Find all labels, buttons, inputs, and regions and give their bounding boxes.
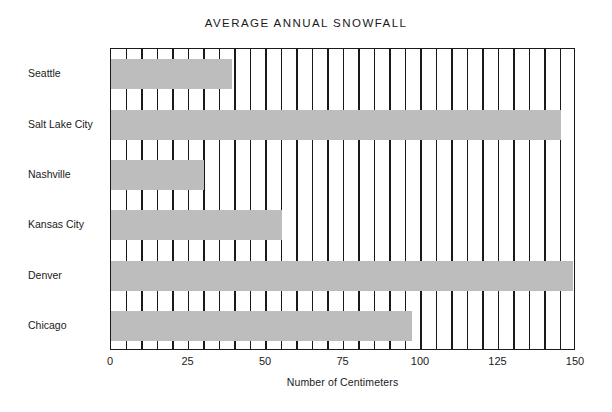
bar [111,261,573,291]
x-tick-label: 75 [336,355,348,367]
gridline [234,49,235,349]
gridline [312,49,313,349]
chart-title: AVERAGE ANNUAL SNOWFALL [0,17,612,29]
gridline [172,49,173,349]
x-tick-label: 125 [488,355,506,367]
category-label: Salt Lake City [0,118,100,130]
gridline [188,49,189,349]
category-label: Kansas City [0,218,100,230]
x-tick-label: 50 [259,355,271,367]
gridline [358,49,359,349]
gridline [265,49,266,349]
gridline [141,49,142,349]
gridline [529,49,530,349]
gridline [482,49,483,349]
gridline [126,49,127,349]
gridline [281,49,282,349]
bar [111,110,561,140]
gridline [327,49,328,349]
plot-area [110,48,575,350]
gridline [250,49,251,349]
bar [111,59,232,89]
gridline [498,49,499,349]
bar [111,160,204,190]
gridline [451,49,452,349]
gridline [157,49,158,349]
x-axis-title: Number of Centimeters [110,376,575,388]
bar [111,210,282,240]
category-label: Seattle [0,67,100,79]
x-tick-label: 25 [181,355,193,367]
gridline [513,49,514,349]
gridline [219,49,220,349]
gridline [560,49,561,349]
x-tick-label: 150 [566,355,584,367]
snowfall-bar-chart: AVERAGE ANNUAL SNOWFALL SeattleSalt Lake… [0,0,612,412]
gridline [296,49,297,349]
gridline [343,49,344,349]
x-tick-label: 0 [107,355,113,367]
x-tick-label: 100 [411,355,429,367]
gridline [544,49,545,349]
gridline [436,49,437,349]
gridline [467,49,468,349]
gridline [389,49,390,349]
category-label: Chicago [0,319,100,331]
gridline [405,49,406,349]
gridline [420,49,421,349]
bar [111,311,412,341]
gridline [374,49,375,349]
category-label: Denver [0,269,100,281]
gridline [203,49,204,349]
category-label: Nashville [0,168,100,180]
